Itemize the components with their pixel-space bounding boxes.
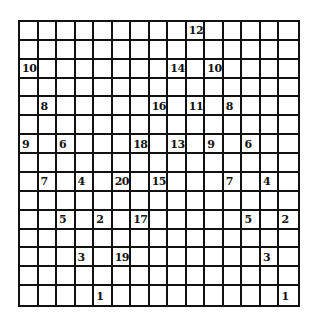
grid-cell-r10-c2[interactable] [39, 192, 58, 211]
grid-cell-r5-c1[interactable] [20, 97, 39, 116]
grid-cell-r3-c5[interactable] [94, 60, 113, 79]
grid-cell-r7-c7[interactable]: 18 [131, 135, 150, 154]
grid-cell-r13-c15[interactable] [279, 248, 298, 267]
grid-cell-r13-c9[interactable] [168, 248, 187, 267]
grid-cell-r9-c1[interactable] [20, 173, 39, 192]
grid-cell-r5-c3[interactable] [57, 97, 76, 116]
grid-cell-r2-c9[interactable] [168, 41, 187, 60]
grid-cell-r8-c4[interactable] [76, 154, 95, 173]
grid-cell-r15-c1[interactable] [20, 286, 39, 305]
grid-cell-r2-c8[interactable] [150, 41, 169, 60]
grid-cell-r1-c15[interactable] [279, 22, 298, 41]
grid-cell-r3-c6[interactable] [113, 60, 132, 79]
grid-cell-r1-c3[interactable] [57, 22, 76, 41]
grid-cell-r5-c11[interactable] [205, 97, 224, 116]
grid-cell-r10-c7[interactable] [131, 192, 150, 211]
grid-cell-r15-c9[interactable] [168, 286, 187, 305]
grid-cell-r2-c3[interactable] [57, 41, 76, 60]
grid-cell-r5-c15[interactable] [279, 97, 298, 116]
grid-cell-r15-c4[interactable] [76, 286, 95, 305]
grid-cell-r1-c13[interactable] [242, 22, 261, 41]
grid-cell-r9-c15[interactable] [279, 173, 298, 192]
grid-cell-r1-c7[interactable] [131, 22, 150, 41]
grid-cell-r2-c4[interactable] [76, 41, 95, 60]
grid-cell-r13-c5[interactable] [94, 248, 113, 267]
grid-cell-r10-c12[interactable] [224, 192, 243, 211]
grid-cell-r14-c8[interactable] [150, 267, 169, 286]
grid-cell-r2-c15[interactable] [279, 41, 298, 60]
grid-cell-r6-c2[interactable] [39, 116, 58, 135]
grid-cell-r2-c13[interactable] [242, 41, 261, 60]
grid-cell-r2-c11[interactable] [205, 41, 224, 60]
grid-cell-r3-c4[interactable] [76, 60, 95, 79]
grid-cell-r12-c13[interactable] [242, 230, 261, 249]
grid-cell-r10-c14[interactable] [261, 192, 280, 211]
grid-cell-r5-c12[interactable]: 8 [224, 97, 243, 116]
grid-cell-r9-c10[interactable] [187, 173, 206, 192]
grid-cell-r6-c11[interactable] [205, 116, 224, 135]
grid-cell-r14-c6[interactable] [113, 267, 132, 286]
grid-cell-r9-c5[interactable] [94, 173, 113, 192]
grid-cell-r7-c12[interactable] [224, 135, 243, 154]
grid-cell-r13-c4[interactable]: 3 [76, 248, 95, 267]
grid-cell-r6-c10[interactable] [187, 116, 206, 135]
grid-cell-r10-c9[interactable] [168, 192, 187, 211]
grid-cell-r7-c4[interactable] [76, 135, 95, 154]
grid-cell-r11-c9[interactable] [168, 211, 187, 230]
grid-cell-r9-c4[interactable]: 4 [76, 173, 95, 192]
grid-cell-r1-c12[interactable] [224, 22, 243, 41]
grid-cell-r15-c11[interactable] [205, 286, 224, 305]
grid-cell-r14-c3[interactable] [57, 267, 76, 286]
grid-cell-r5-c2[interactable]: 8 [39, 97, 58, 116]
grid-cell-r8-c12[interactable] [224, 154, 243, 173]
grid-cell-r11-c1[interactable] [20, 211, 39, 230]
grid-cell-r2-c2[interactable] [39, 41, 58, 60]
grid-cell-r13-c12[interactable] [224, 248, 243, 267]
grid-cell-r7-c6[interactable] [113, 135, 132, 154]
grid-cell-r9-c8[interactable]: 15 [150, 173, 169, 192]
grid-cell-r8-c6[interactable] [113, 154, 132, 173]
grid-cell-r10-c15[interactable] [279, 192, 298, 211]
grid-cell-r1-c14[interactable] [261, 22, 280, 41]
grid-cell-r5-c10[interactable]: 11 [187, 97, 206, 116]
grid-cell-r12-c10[interactable] [187, 230, 206, 249]
grid-cell-r14-c1[interactable] [20, 267, 39, 286]
grid-cell-r15-c3[interactable] [57, 286, 76, 305]
grid-cell-r2-c7[interactable] [131, 41, 150, 60]
grid-cell-r3-c9[interactable]: 14 [168, 60, 187, 79]
grid-cell-r6-c8[interactable] [150, 116, 169, 135]
grid-cell-r14-c14[interactable] [261, 267, 280, 286]
grid-cell-r8-c7[interactable] [131, 154, 150, 173]
grid-cell-r12-c15[interactable] [279, 230, 298, 249]
grid-cell-r15-c10[interactable] [187, 286, 206, 305]
grid-cell-r13-c2[interactable] [39, 248, 58, 267]
grid-cell-r11-c7[interactable]: 17 [131, 211, 150, 230]
grid-cell-r14-c15[interactable] [279, 267, 298, 286]
grid-cell-r2-c10[interactable] [187, 41, 206, 60]
grid-cell-r4-c13[interactable] [242, 79, 261, 98]
grid-cell-r7-c14[interactable] [261, 135, 280, 154]
grid-cell-r13-c1[interactable] [20, 248, 39, 267]
grid-cell-r12-c7[interactable] [131, 230, 150, 249]
grid-cell-r14-c11[interactable] [205, 267, 224, 286]
grid-cell-r14-c12[interactable] [224, 267, 243, 286]
grid-cell-r4-c10[interactable] [187, 79, 206, 98]
grid-cell-r7-c15[interactable] [279, 135, 298, 154]
grid-cell-r6-c14[interactable] [261, 116, 280, 135]
grid-cell-r4-c3[interactable] [57, 79, 76, 98]
grid-cell-r1-c2[interactable] [39, 22, 58, 41]
grid-cell-r10-c1[interactable] [20, 192, 39, 211]
grid-cell-r8-c10[interactable] [187, 154, 206, 173]
grid-cell-r14-c5[interactable] [94, 267, 113, 286]
grid-cell-r3-c13[interactable] [242, 60, 261, 79]
grid-cell-r11-c6[interactable] [113, 211, 132, 230]
grid-cell-r11-c14[interactable] [261, 211, 280, 230]
grid-cell-r11-c8[interactable] [150, 211, 169, 230]
grid-cell-r8-c8[interactable] [150, 154, 169, 173]
grid-cell-r15-c6[interactable] [113, 286, 132, 305]
grid-cell-r4-c14[interactable] [261, 79, 280, 98]
grid-cell-r4-c6[interactable] [113, 79, 132, 98]
grid-cell-r1-c6[interactable] [113, 22, 132, 41]
grid-cell-r8-c9[interactable] [168, 154, 187, 173]
grid-cell-r7-c5[interactable] [94, 135, 113, 154]
